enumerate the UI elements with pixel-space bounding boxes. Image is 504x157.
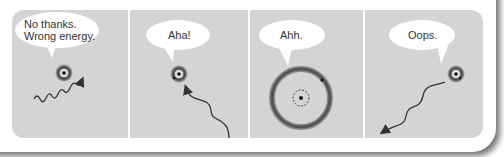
speech-bubble [259,20,325,66]
panel-3: Ahh. [250,10,363,138]
comic-frame: No thanks. Wrong energy. [0,0,504,157]
panel-1: No thanks. Wrong energy. [12,10,128,138]
panel-2: Aha! [130,10,248,138]
comic-strip: No thanks. Wrong energy. [12,10,483,138]
photon-wave-icon [383,82,445,132]
panel-3-illustration [250,10,363,138]
photon-wave-icon [34,80,82,102]
atom-excited-state-icon [272,69,330,127]
speech-line: No thanks. [24,18,95,30]
speech-text: No thanks. Wrong energy. [24,18,95,42]
atom-ground-state-icon [55,64,73,82]
speech-line: Wrong energy. [24,30,95,42]
atom-ground-state-icon [447,65,465,83]
panel-4: Oops. [365,10,483,138]
speech-text: Aha! [168,29,191,41]
atom-ground-state-icon [170,65,188,83]
speech-bubble [389,20,455,64]
speech-text: Ahh. [280,29,303,41]
speech-text: Oops. [408,29,437,41]
photon-wave-icon [186,88,229,138]
speech-bubble [146,20,210,62]
